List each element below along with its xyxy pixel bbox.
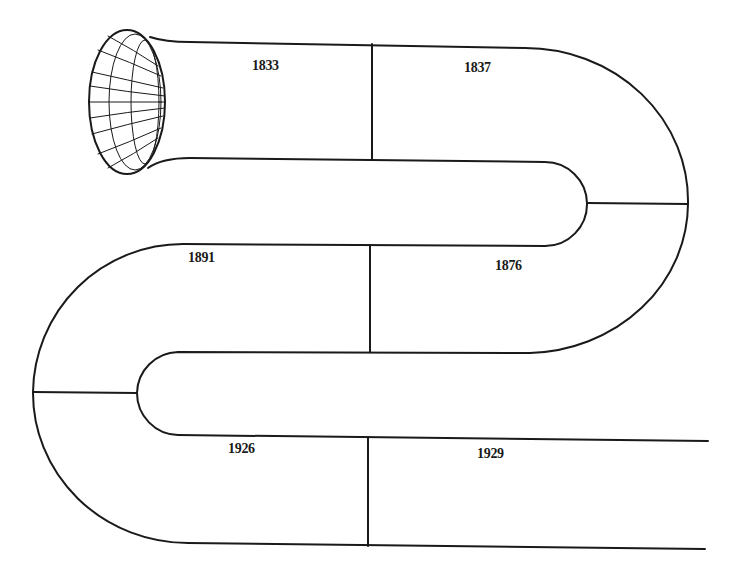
tube-outer-top [190,42,688,353]
bell-horn-icon [89,30,190,174]
segment-label-1876: 1876 [495,258,522,274]
segment-label-1929: 1929 [477,446,504,462]
divider-1891-1926 [33,392,137,393]
serpentine-tube-diagram [0,0,735,573]
tube-middle-inner [137,352,530,435]
tube-bottom-bottom [188,543,705,549]
tube-bottom-top [178,435,708,441]
segment-label-1891: 1891 [188,250,215,266]
segment-label-1833: 1833 [252,58,279,74]
segment-label-1926: 1926 [228,441,255,457]
segment-label-1837: 1837 [464,60,491,76]
divider-1837-1876 [587,203,688,204]
tube-inner-top [190,158,587,246]
